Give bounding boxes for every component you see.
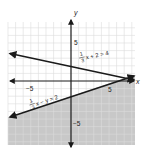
svg-text:x + 2 = 4: x + 2 = 4 [85,50,110,61]
coordinate-plane-chart: y x 5 −5 −5 5 1 3 x + 2 = 4 1 3 x − y = … [0,0,141,154]
y-tick-5: 5 [74,39,78,46]
svg-text:3: 3 [31,104,36,111]
y-tick-neg5: −5 [73,120,81,127]
x-tick-5: 5 [108,86,112,93]
line-1 [10,54,134,81]
y-axis-label: y [73,9,78,17]
svg-text:1: 1 [79,50,83,56]
svg-text:1: 1 [29,97,34,104]
x-axis-label: x [135,78,140,85]
x-tick-neg5: −5 [26,85,34,92]
